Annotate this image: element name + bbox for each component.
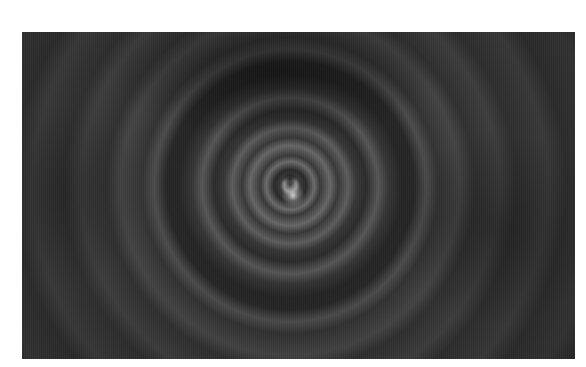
radial-blur-photo xyxy=(22,32,575,359)
photo-grain-texture xyxy=(22,32,575,359)
page xyxy=(0,0,586,367)
